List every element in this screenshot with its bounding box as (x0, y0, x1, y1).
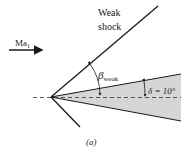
oblique-shock-diagram: Weak shock Ma1 βweak δ = 10° (a) (0, 0, 196, 149)
mach-label: Ma1 (15, 38, 30, 49)
caption: (a) (86, 137, 97, 147)
shock-label-line2: shock (98, 21, 121, 32)
shock-label-line1: Weak (98, 7, 121, 18)
beta-label: βweak (97, 69, 119, 83)
delta-label: δ = 10° (148, 86, 176, 96)
